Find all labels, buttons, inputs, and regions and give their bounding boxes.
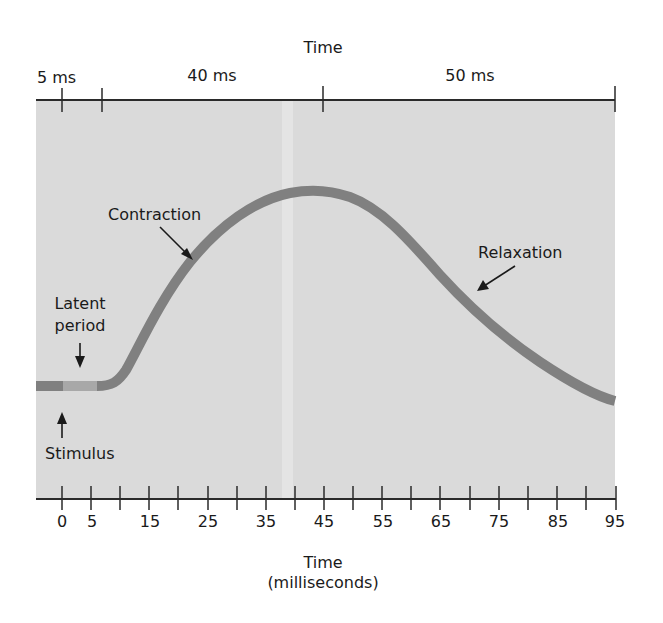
tick-label-5: 5 xyxy=(87,514,97,530)
phase-latent-duration: 5 ms xyxy=(37,70,76,86)
x-axis-units: (milliseconds) xyxy=(267,575,378,591)
tick-label-35: 35 xyxy=(256,514,276,530)
tick-label-15: 15 xyxy=(140,514,160,530)
tick-label-55: 55 xyxy=(373,514,393,530)
tick-label-45: 45 xyxy=(314,514,334,530)
phase-contraction-duration: 40 ms xyxy=(187,68,236,84)
latent-label-line1: Latent xyxy=(54,296,105,312)
tick-label-75: 75 xyxy=(489,514,509,530)
plot-panel xyxy=(36,100,615,499)
tick-label-25: 25 xyxy=(198,514,218,530)
stimulus-label: Stimulus xyxy=(45,446,115,462)
latent-label-line2: period xyxy=(55,318,106,334)
tick-label-95: 95 xyxy=(605,514,625,530)
muscle-twitch-diagram: Time 5 ms 40 ms 50 ms Contraction Relaxa… xyxy=(0,0,663,623)
tick-label-85: 85 xyxy=(548,514,568,530)
relaxation-label: Relaxation xyxy=(478,245,562,261)
panel-light-band xyxy=(282,100,293,499)
tick-label-0: 0 xyxy=(57,514,67,530)
tick-label-65: 65 xyxy=(431,514,451,530)
phase-relaxation-duration: 50 ms xyxy=(445,68,494,84)
top-axis-title: Time xyxy=(303,40,342,56)
x-axis-title: Time xyxy=(303,555,342,571)
contraction-label: Contraction xyxy=(108,207,201,223)
